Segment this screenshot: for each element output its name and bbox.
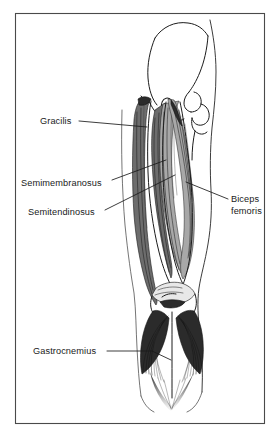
label-biceps-femoris-line1: Biceps [231,194,259,204]
label-biceps-femoris-line2: femoris [231,206,262,216]
label-gracilis: Gracilis [40,116,72,126]
anatomical-figure: Gracilis Semimembranosus Semitendinosus … [0,0,280,437]
label-semimembranosus: Semimembranosus [21,178,102,188]
anatomy-illustration-canvas: Gracilis Semimembranosus Semitendinosus … [0,0,280,437]
label-semitendinosus: Semitendinosus [28,207,95,217]
label-gastrocnemius: Gastrocnemius [33,346,96,356]
